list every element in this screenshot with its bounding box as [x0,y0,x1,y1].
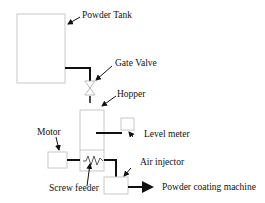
motor-box [48,152,67,168]
pointer-powder-tank [68,17,80,24]
label-powder-tank: Powder Tank [82,11,132,21]
label-screw-feeder: Screw feeder [49,184,99,194]
pointer-hopper [102,96,116,106]
feeder-outlet-pipe [104,160,116,177]
powder-tank-box [17,14,65,83]
label-hopper: Hopper [117,90,146,100]
tank-outlet-pipe [65,68,90,81]
gate-valve-icon-lower [85,88,95,95]
level-meter-box [121,118,134,130]
label-gate-valve: Gate Valve [115,59,157,69]
pointer-air-injector [124,168,131,176]
label-motor: Motor [37,128,61,138]
label-powder-coating-machine: Powder coating machine [162,183,256,193]
pointer-gate-valve [96,66,112,80]
process-diagram [0,0,265,203]
pointer-motor [56,137,59,150]
label-air-injector: Air injector [140,158,184,168]
air-injector-box [104,177,128,194]
pointer-level-meter [129,132,133,137]
gate-valve-icon [85,81,95,88]
label-level-meter: Level meter [144,130,190,140]
